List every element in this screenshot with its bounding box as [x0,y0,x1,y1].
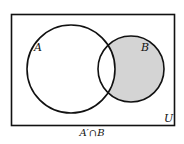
venn-diagram: A B U [0,0,184,144]
set-a-label: A [33,41,42,54]
set-b-label: B [140,41,149,54]
universe-label: U [164,112,174,125]
caption: A′∩B [0,127,184,138]
